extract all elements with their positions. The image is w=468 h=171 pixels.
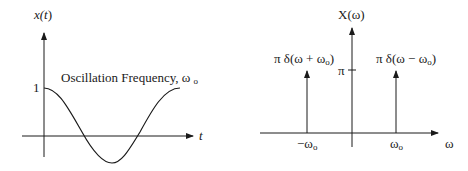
freq-y-tick-label: π xyxy=(338,64,345,77)
time-domain-plot xyxy=(22,33,193,163)
impulse-right-text: π δ(ω − ω xyxy=(376,51,427,66)
freq-x-axis-label: ω xyxy=(445,137,454,150)
frequency-domain-plot xyxy=(260,28,438,147)
freq-y-axis-label: X(ω) xyxy=(338,8,365,21)
tick-left-label: −ωo xyxy=(297,137,317,152)
impulse-right-close: ) xyxy=(432,51,436,66)
tick-right-text: ω xyxy=(390,136,399,151)
y-label-suffix: ) xyxy=(48,7,52,22)
impulse-left-text: π δ(ω + ω xyxy=(274,51,325,66)
tick-left-text: −ω xyxy=(297,136,313,151)
impulse-left-label: π δ(ω + ωo) xyxy=(274,52,334,67)
cosine-curve xyxy=(44,88,180,163)
impulse-left-close: ) xyxy=(330,51,334,66)
tick-left-sub: o xyxy=(313,142,318,152)
annotation-text: Oscillation Frequency, ω xyxy=(61,70,190,85)
oscillation-frequency-annotation: Oscillation Frequency, ωo xyxy=(61,71,198,86)
y-label-prefix: x( xyxy=(34,7,44,22)
time-x-axis-label: t xyxy=(199,129,203,142)
tick-right-sub: o xyxy=(399,142,404,152)
time-y-axis-label: x(t) xyxy=(34,8,52,21)
impulse-right-label: π δ(ω − ωo) xyxy=(376,52,436,67)
annotation-sub: o xyxy=(193,76,198,86)
tick-right-label: ωo xyxy=(390,137,403,152)
time-y-tick-label: 1 xyxy=(33,81,40,94)
